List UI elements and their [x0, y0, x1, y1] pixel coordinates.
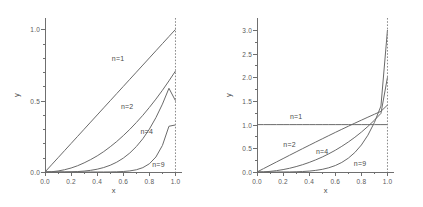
- curve-label-n9: n=9: [354, 159, 366, 166]
- x-tick: [309, 172, 310, 176]
- x-tick-label: 0.4: [92, 178, 102, 185]
- x-tick: [257, 172, 258, 176]
- x-tick-label: 0.4: [304, 178, 314, 185]
- y-tick-label: 0.0: [242, 169, 252, 176]
- x-tick-label: 0.8: [145, 178, 155, 185]
- x-tick: [97, 172, 98, 176]
- y-tick-label: 0.5: [30, 97, 40, 104]
- plot-panel-left: 0.00.51.00.00.20.40.60.81.0n=1n=2n=4n=9 …: [0, 0, 211, 207]
- y-tick-label: 2.5: [242, 50, 252, 57]
- x-tick-minor: [322, 172, 323, 174]
- y-tick-label: 3.0: [242, 26, 252, 33]
- curve-layer: [45, 18, 182, 172]
- x-tick-label: 0.0: [252, 178, 262, 185]
- x-axis-title-right: x: [324, 186, 328, 195]
- y-tick-label: 0.5: [242, 145, 252, 152]
- x-tick-label: 1.0: [171, 178, 181, 185]
- y-tick-label: 1.5: [242, 97, 252, 104]
- curve-n2: [257, 105, 387, 172]
- x-tick: [175, 172, 176, 176]
- x-tick-label: 0.8: [357, 178, 367, 185]
- curve-label-n1: n=1: [290, 113, 302, 120]
- x-tick-minor: [136, 172, 137, 174]
- curve-label-n4: n=4: [316, 148, 328, 155]
- x-tick: [361, 172, 362, 176]
- x-tick: [45, 172, 46, 176]
- figure: 0.00.51.00.00.20.40.60.81.0n=1n=2n=4n=9 …: [0, 0, 423, 207]
- plot-area-left: 0.00.51.00.00.20.40.60.81.0n=1n=2n=4n=9 …: [45, 18, 182, 172]
- x-tick: [283, 172, 284, 176]
- x-tick: [335, 172, 336, 176]
- x-tick-minor: [348, 172, 349, 174]
- x-tick-minor: [296, 172, 297, 174]
- x-tick-label: 0.0: [40, 178, 50, 185]
- x-tick-minor: [374, 172, 375, 174]
- y-axis-title-left: y: [12, 93, 21, 97]
- x-tick-minor: [162, 172, 163, 174]
- y-axis-title-right: y: [224, 93, 233, 97]
- y-tick-label: 0.0: [30, 169, 40, 176]
- curve-label-n9: n=9: [152, 161, 164, 168]
- y-tick-label: 2.0: [242, 74, 252, 81]
- curve-n1: [45, 29, 175, 172]
- plot-panel-right: 0.00.51.01.52.02.53.00.00.20.40.60.81.0n…: [212, 0, 423, 207]
- x-tick: [123, 172, 124, 176]
- x-tick-label: 0.2: [66, 178, 76, 185]
- x-tick-label: 0.6: [118, 178, 128, 185]
- x-tick: [71, 172, 72, 176]
- x-tick-label: 0.6: [330, 178, 340, 185]
- y-tick-label: 1.0: [242, 121, 252, 128]
- curve-label-n1: n=1: [112, 54, 124, 61]
- curve-label-n4: n=4: [141, 127, 153, 134]
- plot-area-right: 0.00.51.01.52.02.53.00.00.20.40.60.81.0n…: [257, 18, 394, 172]
- curve-label-n2: n=2: [121, 103, 133, 110]
- x-tick: [149, 172, 150, 176]
- x-tick-label: 0.2: [278, 178, 288, 185]
- y-tick-label: 1.0: [30, 26, 40, 33]
- curve-label-n2: n=2: [283, 140, 295, 147]
- x-axis-title-left: x: [112, 186, 116, 195]
- x-tick: [387, 172, 388, 176]
- x-tick-label: 1.0: [383, 178, 393, 185]
